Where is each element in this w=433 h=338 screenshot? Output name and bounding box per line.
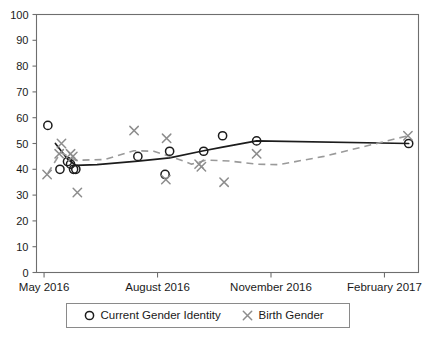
x-tick-label-0: May 2016 [19,281,70,293]
y-tick-label-90: 90 [16,34,28,46]
y-tick-label-60: 60 [16,112,28,124]
y-tick-label-20: 20 [16,215,28,227]
scatter-chart: 0102030405060708090100 May 2016August 20… [0,0,433,338]
y-tick-label-80: 80 [16,60,28,72]
legend-label-birth-gender: Birth Gender [259,309,324,321]
y-tick-label-70: 70 [16,86,28,98]
chart-figure: 0102030405060708090100 May 2016August 20… [0,0,433,338]
y-tick-label-40: 40 [16,163,28,175]
y-tick-label-10: 10 [16,241,28,253]
x-tick-label-3: February 2017 [347,281,422,293]
y-tick-label-100: 100 [10,9,28,21]
x-tick-label-2: November 2016 [230,281,312,293]
x-tick-label-1: August 2016 [125,281,190,293]
y-tick-label-0: 0 [22,267,28,279]
y-tick-label-50: 50 [16,138,28,150]
legend-label-current-gender-identity: Current Gender Identity [101,309,221,321]
y-tick-label-30: 30 [16,189,28,201]
chart-legend: Current Gender IdentityBirth Gender [67,304,350,328]
